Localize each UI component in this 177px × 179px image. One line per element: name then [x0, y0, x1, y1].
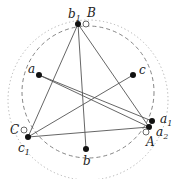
segments [28, 24, 152, 149]
label-A: A [145, 135, 155, 149]
segment-b1-b [78, 24, 86, 149]
point-b [83, 146, 89, 152]
point-a1 [149, 118, 155, 124]
label-a: a [28, 62, 35, 76]
inner-dashed-circle [22, 26, 154, 158]
point-c [130, 72, 136, 78]
geometry-figure: b1 B a c C c1 b a1 a2 A [0, 0, 177, 179]
label-c: c [139, 63, 146, 77]
diagram-canvas: b1 B a c C c1 b a1 a2 A [0, 0, 177, 179]
label-C: C [10, 123, 19, 137]
segment-a-a1 [39, 75, 152, 121]
label-b: b [83, 154, 91, 168]
segment-c-c1 [28, 75, 133, 137]
label-b1: b1 [68, 7, 81, 23]
point-C [21, 127, 27, 133]
point-B [83, 21, 89, 27]
label-B: B [86, 6, 96, 20]
point-c1 [25, 134, 31, 140]
segment-c1-a2 [28, 127, 149, 137]
label-c1: c1 [18, 141, 30, 157]
labels: b1 B a c C c1 b a1 a2 A [10, 6, 172, 168]
point-a [36, 72, 42, 78]
segment-a-a2 [39, 75, 149, 127]
